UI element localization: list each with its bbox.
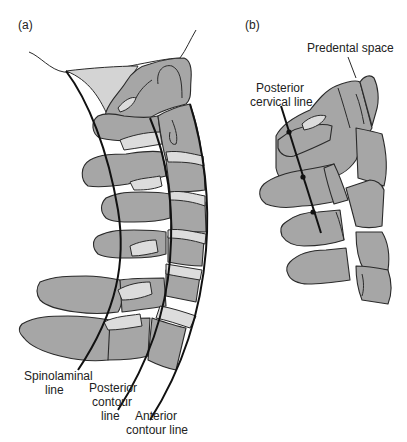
b-c2-anterior-body: [356, 128, 386, 186]
b-c3-body: [346, 180, 384, 228]
pcl-point-c1: [286, 129, 291, 134]
panel-a-label: (a): [18, 18, 33, 32]
cervical-spine-diagram: (a): [0, 0, 407, 442]
b-c5-lamina: [287, 248, 350, 284]
panel-a: (a): [18, 18, 207, 437]
pcl-label-1: Posterior: [256, 81, 304, 95]
anterior-contour-label-2: contour line: [126, 423, 188, 437]
panel-b: (b) Predental space Posterior cervical l…: [245, 18, 394, 304]
posterior-contour-label-3: line: [101, 409, 120, 423]
posterior-contour-label-1: Posterior: [89, 381, 137, 395]
posterior-contour-label-2: contour: [92, 395, 132, 409]
b-c4-body: [356, 232, 389, 270]
b-c5-body: [356, 266, 391, 304]
anterior-contour-label-1: Anterior: [135, 409, 177, 423]
c4-spinous-process: [102, 192, 171, 222]
spinolaminal-label-2: line: [45, 383, 64, 397]
pcl-point-c3: [310, 209, 315, 214]
predental-space-label: Predental space: [307, 41, 394, 55]
pcl-point-c2: [300, 174, 305, 179]
spinolaminal-label-1: Spinolaminal: [24, 369, 93, 383]
b-c4-lamina: [281, 210, 344, 246]
predental-leader-line: [348, 57, 356, 78]
c7-spinous-process: [19, 316, 113, 361]
panel-b-label: (b): [245, 18, 260, 32]
